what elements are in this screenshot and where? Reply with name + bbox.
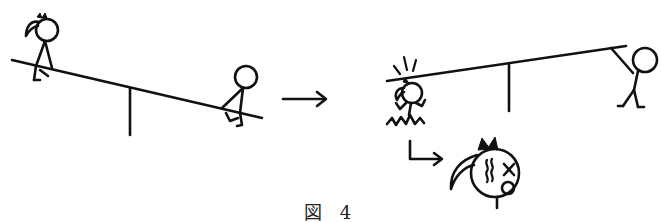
panel-after [387, 46, 657, 208]
boy-sitting-icon [222, 66, 257, 126]
boy-hanging-icon [611, 48, 657, 107]
figure-caption: 図 4 [0, 198, 661, 222]
seesaw-plank-before [12, 60, 262, 118]
girl-falling-icon [387, 57, 425, 125]
transition-arrow-icon [283, 92, 326, 106]
seesaw-plank-after [387, 46, 626, 81]
panel-before [12, 13, 262, 135]
closeup-arrow-icon [410, 141, 442, 165]
figure-illustration [0, 0, 661, 222]
